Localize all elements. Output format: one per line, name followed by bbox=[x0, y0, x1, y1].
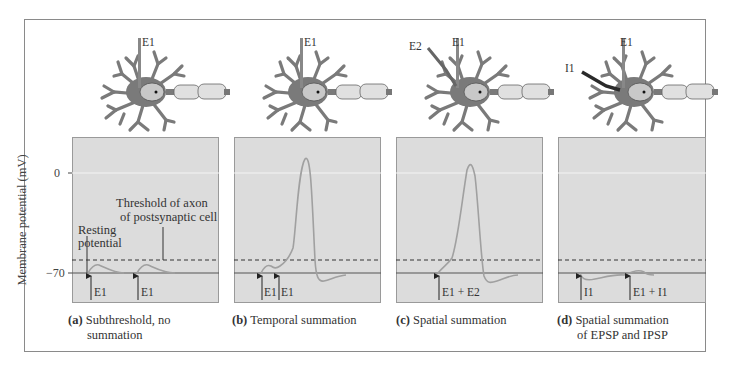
stim-a-1: E1 bbox=[94, 286, 107, 298]
stim-d-1: I1 bbox=[584, 286, 594, 298]
caption-c-line1: Spatial summation bbox=[413, 313, 506, 327]
neuron-c-label-e2: E2 bbox=[409, 40, 422, 52]
neuron-d-label-e1: E1 bbox=[620, 36, 633, 48]
caption-b-letter: (b) bbox=[232, 313, 247, 327]
stimulus-arrows bbox=[91, 276, 630, 300]
caption-c: (c) Spatial summation bbox=[396, 313, 506, 328]
stim-d-2: E1 + I1 bbox=[633, 286, 668, 298]
stim-b-1: E1 bbox=[264, 286, 277, 298]
caption-c-letter: (c) bbox=[396, 313, 410, 327]
caption-d-letter: (d) bbox=[557, 313, 572, 327]
caption-d: (d) Spatial summation of EPSP and IPSP bbox=[557, 313, 669, 343]
caption-a: (a) Subthreshold, no summation bbox=[68, 313, 170, 343]
neuron-a-label-e1: E1 bbox=[142, 36, 155, 48]
caption-a-letter: (a) bbox=[68, 313, 83, 327]
caption-a-line1: Subthreshold, no bbox=[86, 313, 171, 327]
stim-c-1: E1 + E2 bbox=[442, 286, 480, 298]
caption-b: (b) Temporal summation bbox=[232, 313, 357, 328]
resting-annotation: Resting potential bbox=[78, 224, 122, 250]
threshold-line2: of postsynaptic cell bbox=[116, 210, 217, 224]
resting-line2: potential bbox=[78, 237, 122, 250]
neuron-c-label-e1: E1 bbox=[452, 36, 465, 48]
neuron-d-label-i1: I1 bbox=[565, 62, 575, 74]
neuron-d bbox=[582, 38, 718, 130]
neuron-a bbox=[102, 38, 230, 130]
caption-d-line1: Spatial summation bbox=[575, 313, 668, 327]
caption-b-line1: Temporal summation bbox=[250, 313, 356, 327]
neuron-b bbox=[264, 38, 392, 130]
neuron-c bbox=[426, 38, 554, 130]
threshold-line1: Threshold of axon bbox=[116, 196, 217, 210]
stim-a-2: E1 bbox=[141, 286, 154, 298]
caption-a-line2: summation bbox=[68, 328, 170, 343]
neuron-b-label-e1: E1 bbox=[304, 36, 317, 48]
caption-d-line2: of EPSP and IPSP bbox=[557, 328, 669, 343]
stim-b-2: E1 bbox=[281, 286, 294, 298]
threshold-annotation: Threshold of axon of postsynaptic cell bbox=[116, 196, 217, 224]
